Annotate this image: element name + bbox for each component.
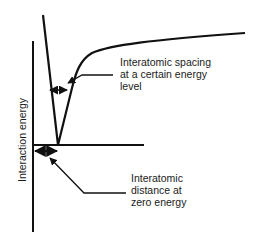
annotation-line: Interatomic xyxy=(131,172,186,184)
annotation-line: distance at xyxy=(131,184,186,196)
annotation-line: level xyxy=(120,80,211,92)
annotation-line: at a certain energy xyxy=(120,68,211,80)
annotation-zero-distance: Interatomic distance at zero energy xyxy=(131,172,186,208)
annotation-line: zero energy xyxy=(131,196,186,208)
zero-leader-arrow xyxy=(50,158,126,193)
annotation-spacing: Interatomic spacing at a certain energy … xyxy=(120,56,211,92)
y-axis-label: Interaction energy xyxy=(16,98,28,182)
annotation-line: Interatomic spacing xyxy=(120,56,211,68)
